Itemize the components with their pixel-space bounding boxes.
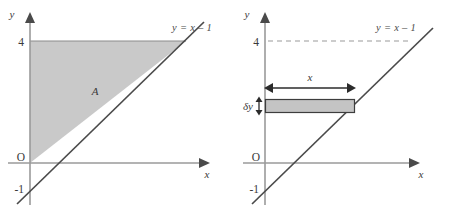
y-axis-arrow-icon [260, 12, 270, 23]
height-arrow-down-icon [256, 110, 263, 116]
y-tick-label-4: 4 [253, 36, 259, 48]
x-axis-arrow-icon [409, 158, 420, 168]
strip-element-shape [266, 100, 355, 113]
region-panel: y x 4 -1 O A y = x – 1 [8, 8, 212, 205]
graph-line-y-equals-x-minus-1 [252, 28, 433, 204]
strip-width-label: x [307, 71, 313, 83]
strip-panel: y x 4 -1 O x δy y = x – 1 [243, 8, 433, 205]
width-arrow-right-icon [347, 83, 356, 93]
height-arrow-up-icon [256, 97, 263, 103]
x-axis-arrow-icon [199, 158, 210, 168]
figure-svg: y x 4 -1 O A y = x – 1 [0, 0, 450, 215]
y-axis-label: y [9, 8, 15, 20]
origin-label: O [252, 151, 260, 163]
x-axis-label: x [418, 168, 424, 180]
line-equation-label: y = x – 1 [375, 22, 416, 33]
strip-height-label: δy [243, 100, 253, 112]
y-axis-label: y [244, 8, 250, 20]
y-tick-label-minus-1: -1 [249, 183, 259, 195]
y-tick-label-minus-1: -1 [14, 183, 24, 195]
origin-label: O [17, 151, 25, 163]
region-A-shape [30, 41, 186, 163]
region-A-label: A [91, 85, 99, 97]
line-equation-label: y = x – 1 [171, 22, 212, 33]
math-figure: y x 4 -1 O A y = x – 1 [0, 0, 450, 215]
y-tick-label-4: 4 [18, 36, 24, 48]
x-axis-label: x [204, 168, 210, 180]
y-axis-arrow-icon [25, 12, 35, 23]
